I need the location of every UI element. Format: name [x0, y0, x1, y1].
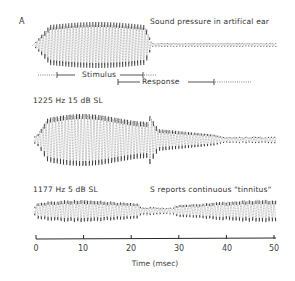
trace-1177hz: [34, 200, 276, 223]
trace2-label: 1225 Hz 15 dB SL: [33, 96, 103, 105]
trace3-annotation: S reports continuous "tinnitus": [150, 185, 271, 194]
tick-label-10: 10: [78, 244, 88, 253]
time-axis: [36, 235, 276, 239]
x-axis-title: Time (msec): [132, 259, 179, 268]
figure-canvas: [0, 0, 295, 281]
tick-label-40: 40: [222, 244, 232, 253]
trace1-label: Sound pressure in artifical ear: [150, 17, 269, 26]
trace-sound-pressure: [32, 22, 276, 68]
panel-label: A: [19, 17, 24, 26]
trace-1225hz: [34, 114, 276, 166]
trace3-label: 1177 Hz 5 dB SL: [33, 185, 98, 194]
tick-label-50: 50: [269, 244, 279, 253]
response-label: Response: [142, 77, 180, 86]
tick-label-0: 0: [33, 244, 38, 253]
tick-label-30: 30: [174, 244, 184, 253]
tick-label-20: 20: [126, 244, 136, 253]
stimulus-label: Stimulus: [82, 70, 116, 79]
